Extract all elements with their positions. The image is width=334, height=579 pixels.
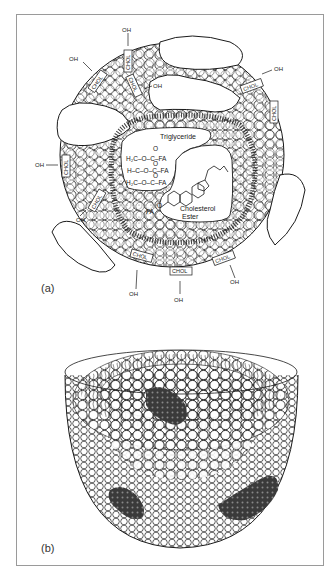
panel-b-hemisphere-cutaway: [65, 350, 298, 548]
oh-label: OH: [76, 217, 85, 223]
chol-marker: OH CHOL: [129, 249, 153, 297]
chol-label: CHOL: [172, 268, 187, 274]
ester-o-label: O: [157, 202, 162, 209]
panel-a-lipoprotein-particle: Triglyceride H₂C–O–C–FA H–C–O–C–FA H₂C–O…: [35, 27, 305, 303]
carbonyl-o-2: O: [153, 160, 158, 167]
panel-a-label: (a): [41, 282, 54, 294]
chol-marker: OH CHOL: [170, 267, 192, 303]
oh-label: OH: [129, 291, 138, 297]
formula-row-2: H–C–O–C–FA: [127, 167, 169, 174]
formula-row-3: H₂C–O–C–FA: [126, 179, 167, 186]
chol-marker: CHOL: [270, 101, 278, 123]
formula-row-1: H₂C–O–C–FA: [126, 155, 167, 162]
oh-label: OH: [69, 56, 78, 62]
oh-label: OH: [35, 162, 44, 168]
ester-fa-label: FA: [146, 208, 155, 215]
oh-label: OH: [274, 66, 283, 72]
cholesterol-ester-label-2: Ester: [182, 213, 199, 220]
chol-label: CHOL: [63, 160, 69, 175]
oh-label: OH: [174, 297, 183, 303]
panel-b-label: (b): [41, 542, 54, 554]
oh-label: OH: [153, 83, 162, 89]
carbonyl-o-3: O: [153, 172, 158, 179]
chol-label: CHOL: [271, 106, 277, 121]
triglyceride-label: Triglyceride: [160, 133, 196, 141]
carbonyl-o-1: O: [153, 145, 158, 152]
cholesterol-ester-label-1: Cholesterol: [180, 205, 216, 212]
oh-label: OH: [122, 27, 131, 33]
oh-label: OH: [230, 279, 239, 285]
chol-label: CHOL: [125, 55, 131, 70]
chol-marker: OH CHOL: [35, 155, 70, 177]
